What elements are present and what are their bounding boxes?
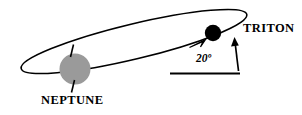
inclination-angle-label: 20º (196, 52, 211, 64)
triton-moon-disc (205, 25, 221, 41)
neptune-label: NEPTUNE (41, 93, 104, 108)
triton-label: TRITON (243, 21, 295, 36)
orbit-diagram: NEPTUNE TRITON 20º (0, 0, 302, 115)
triton-pointer-arrow-head (231, 37, 239, 47)
triton-pointer-arrow-shaft (235, 42, 239, 71)
neptune-planet-disc (60, 54, 91, 85)
